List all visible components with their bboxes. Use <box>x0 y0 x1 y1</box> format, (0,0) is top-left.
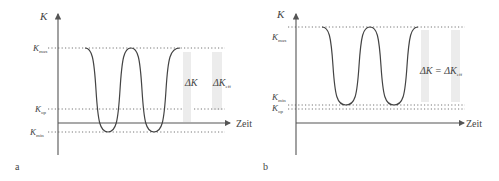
y-axis-label: K <box>276 8 285 20</box>
k-op-label: Kop <box>34 104 47 115</box>
panel-b: K Kmax Kmin Kop ΔK=ΔKeff Zeit b <box>263 8 482 172</box>
delta-k-equals-delta-k-eff-label: ΔK=ΔKeff <box>419 65 463 77</box>
panel-a: K Kmax Kop Kmin ΔK ΔKeff Zeit a <box>15 10 252 172</box>
load-cycle-wave <box>322 27 418 105</box>
panel-label-b: b <box>263 161 268 172</box>
k-min-label: Kmin <box>271 92 286 103</box>
delta-k-eff-label: ΔKeff <box>212 77 231 89</box>
k-op-label: Kop <box>271 103 284 114</box>
x-axis-label: Zeit <box>466 118 482 129</box>
k-min-label: Kmin <box>29 127 44 138</box>
panel-label-a: a <box>15 161 20 172</box>
load-cycle-wave <box>85 48 180 132</box>
k-max-label: Kmax <box>32 43 48 54</box>
fatigue-crack-closure-diagram: K Kmax Kop Kmin ΔK ΔKeff Zeit a K Kmax K… <box>0 0 499 181</box>
y-axis-label: K <box>39 10 48 22</box>
k-max-label: Kmax <box>271 32 287 43</box>
x-axis-label: Zeit <box>236 118 252 129</box>
delta-k-label: ΔK <box>184 77 199 88</box>
